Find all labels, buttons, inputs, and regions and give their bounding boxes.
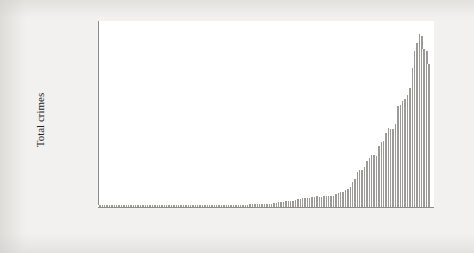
x-axis-labels bbox=[0, 210, 474, 232]
facing-page-text-bleed bbox=[450, 6, 474, 126]
y-axis-title: Total crimes bbox=[34, 60, 46, 180]
bar-series bbox=[98, 21, 434, 207]
bar bbox=[427, 64, 430, 207]
crime-bar-chart: Total crimes bbox=[0, 0, 474, 253]
figure-page: Total crimes bbox=[0, 0, 474, 253]
x-axis-line bbox=[98, 207, 434, 208]
